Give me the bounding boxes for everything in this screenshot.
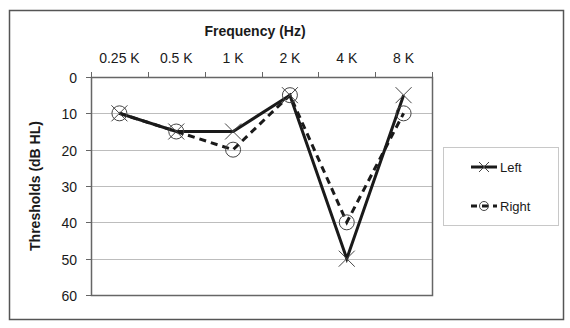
audiogram-chart: Frequency (Hz) Thresholds (dB HL) 0.25 K… [0, 0, 570, 328]
x-tick-label: 0.25 K [99, 50, 140, 66]
y-axis-title: Thresholds (dB HL) [27, 121, 43, 251]
y-tick-label: 60 [61, 288, 77, 304]
y-tick-label: 40 [61, 215, 77, 231]
y-tick-label: 20 [61, 143, 77, 159]
x-tick-label: 2 K [279, 50, 301, 66]
y-tick-label: 30 [61, 179, 77, 195]
x-axis-title: Frequency (Hz) [204, 23, 305, 39]
x-tick-label: 4 K [336, 50, 358, 66]
legend-label: Right [500, 199, 531, 214]
x-tick-label: 0.5 K [160, 50, 193, 66]
x-tick-label: 8 K [393, 50, 415, 66]
y-tick-label: 50 [61, 252, 77, 268]
legend-label: Left [500, 160, 522, 175]
x-tick-label: 1 K [223, 50, 245, 66]
y-tick-label: 0 [69, 70, 77, 86]
y-tick-label: 10 [61, 106, 77, 122]
legend: LeftRight [444, 148, 559, 226]
